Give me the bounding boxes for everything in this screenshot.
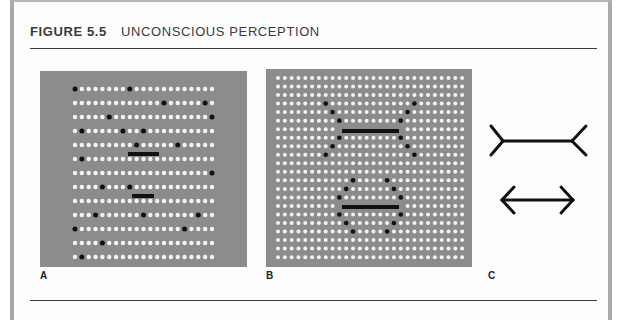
- white-dot: [176, 255, 180, 259]
- white-dot: [121, 101, 125, 105]
- white-dot: [358, 76, 362, 80]
- white-dot: [290, 76, 294, 80]
- white-dot: [303, 102, 307, 106]
- white-dot: [317, 136, 321, 140]
- white-dot: [453, 255, 457, 259]
- white-dot: [385, 144, 389, 148]
- white-dot: [406, 212, 410, 216]
- white-dot: [440, 102, 444, 106]
- white-dot: [210, 157, 214, 161]
- white-dot: [189, 213, 193, 217]
- white-dot: [412, 144, 416, 148]
- white-dot: [433, 238, 437, 242]
- white-dot: [412, 238, 416, 242]
- white-dot: [337, 85, 341, 89]
- white-dot: [148, 241, 152, 245]
- white-dot: [114, 87, 118, 91]
- white-dot: [365, 119, 369, 123]
- white-dot: [128, 115, 132, 119]
- black-dot: [337, 212, 342, 217]
- white-dot: [447, 255, 451, 259]
- white-dot: [290, 255, 294, 259]
- white-dot: [365, 85, 369, 89]
- white-dot: [114, 213, 118, 217]
- white-dot: [433, 153, 437, 157]
- white-dot: [460, 221, 464, 225]
- white-dot: [196, 255, 200, 259]
- white-dot: [210, 143, 214, 147]
- white-dot: [440, 187, 444, 191]
- white-dot: [310, 204, 314, 208]
- white-dot: [453, 144, 457, 148]
- white-dot: [453, 247, 457, 251]
- white-dot: [283, 93, 287, 97]
- white-dot: [406, 178, 410, 182]
- white-dot: [406, 170, 410, 174]
- white-dot: [317, 110, 321, 114]
- white-dot: [419, 76, 423, 80]
- white-dot: [162, 115, 166, 119]
- white-dot: [371, 144, 375, 148]
- white-dot: [371, 238, 375, 242]
- white-dot: [290, 170, 294, 174]
- white-dot: [93, 255, 97, 259]
- white-dot: [426, 93, 430, 97]
- black-dot: [351, 178, 356, 183]
- white-dot: [276, 170, 280, 174]
- white-dot: [303, 221, 307, 225]
- white-dot: [80, 171, 84, 175]
- white-dot: [344, 136, 348, 140]
- white-dot: [283, 144, 287, 148]
- white-dot: [399, 110, 403, 114]
- white-dot: [87, 227, 91, 231]
- white-dot: [189, 143, 193, 147]
- white-dot: [433, 170, 437, 174]
- white-dot: [182, 255, 186, 259]
- white-dot: [134, 87, 138, 91]
- white-dot: [399, 153, 403, 157]
- white-dot: [283, 85, 287, 89]
- white-dot: [447, 119, 451, 123]
- white-dot: [155, 241, 159, 245]
- white-dot: [399, 230, 403, 234]
- white-dot: [87, 255, 91, 259]
- white-dot: [426, 178, 430, 182]
- white-dot: [371, 221, 375, 225]
- white-dot: [371, 255, 375, 259]
- white-dot: [162, 129, 166, 133]
- white-dot: [317, 93, 321, 97]
- white-dot: [440, 221, 444, 225]
- white-dot: [453, 110, 457, 114]
- white-dot: [283, 230, 287, 234]
- white-dot: [310, 212, 314, 216]
- white-dot: [331, 127, 335, 131]
- white-dot: [317, 255, 321, 259]
- white-dot: [440, 93, 444, 97]
- bottom-rule: [30, 300, 597, 301]
- white-dot: [324, 221, 328, 225]
- white-dot: [290, 204, 294, 208]
- white-dot: [290, 110, 294, 114]
- white-dot: [440, 178, 444, 182]
- white-dot: [148, 171, 152, 175]
- white-dot: [426, 136, 430, 140]
- black-dot: [93, 213, 98, 218]
- white-dot: [276, 161, 280, 165]
- white-dot: [433, 212, 437, 216]
- white-dot: [324, 238, 328, 242]
- white-dot: [351, 161, 355, 165]
- white-dot: [283, 153, 287, 157]
- white-dot: [419, 153, 423, 157]
- white-dot: [155, 255, 159, 259]
- white-dot: [310, 187, 314, 191]
- white-dot: [169, 115, 173, 119]
- white-dot: [385, 110, 389, 114]
- white-dot: [283, 102, 287, 106]
- white-dot: [453, 195, 457, 199]
- white-dot: [351, 247, 355, 251]
- white-dot: [351, 136, 355, 140]
- white-dot: [440, 144, 444, 148]
- white-dot: [344, 102, 348, 106]
- white-dot: [290, 178, 294, 182]
- white-dot: [87, 241, 91, 245]
